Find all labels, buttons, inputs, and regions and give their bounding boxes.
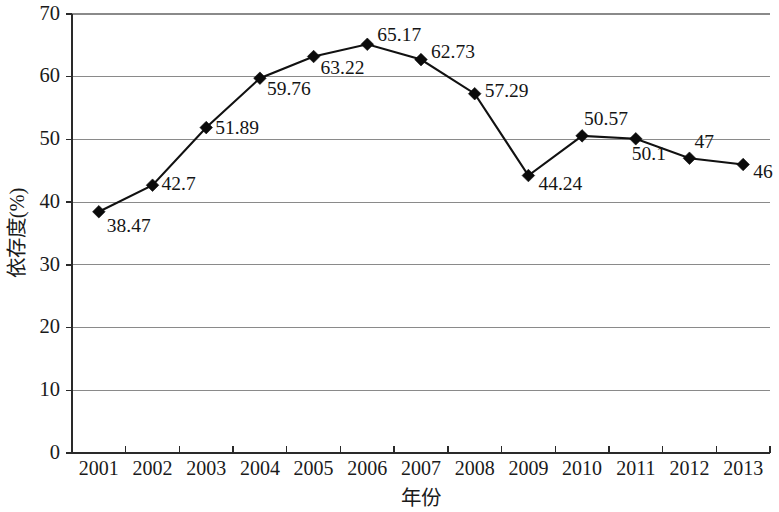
line-chart: 010203040506070 200120022003200420052006… — [0, 0, 779, 512]
data-point-label: 50.1 — [632, 143, 666, 164]
x-tick-label: 2001 — [79, 457, 119, 479]
data-point-label: 62.73 — [431, 41, 475, 62]
y-tick-label: 70 — [40, 2, 61, 24]
data-point-label: 51.89 — [215, 117, 259, 138]
x-tick-label: 2013 — [723, 457, 763, 479]
y-tick-label: 60 — [40, 64, 61, 86]
x-tick-label: 2004 — [240, 457, 280, 479]
data-point-label: 42.7 — [162, 173, 196, 194]
y-tick-label: 50 — [40, 127, 61, 149]
y-tick-label: 40 — [40, 190, 61, 212]
data-point-label: 38.47 — [107, 215, 151, 236]
y-tick-label: 10 — [40, 378, 61, 400]
data-point-label: 57.29 — [485, 80, 529, 101]
x-tick-label: 2012 — [669, 457, 709, 479]
y-tick-label: 0 — [50, 441, 60, 463]
data-point-label: 50.57 — [584, 108, 628, 129]
x-axis-title: 年份 — [401, 487, 441, 509]
chart-canvas: 010203040506070 200120022003200420052006… — [0, 0, 779, 512]
x-tick-label: 2008 — [455, 457, 495, 479]
x-tick-label: 2006 — [347, 457, 387, 479]
data-point-label: 59.76 — [267, 78, 311, 99]
x-tick-label: 2005 — [294, 457, 334, 479]
data-point-label: 46 — [753, 161, 773, 182]
x-tick-label: 2003 — [186, 457, 226, 479]
y-tick-label: 30 — [40, 253, 61, 275]
data-point-label: 47 — [694, 131, 714, 152]
y-axis-title: 依存度(%) — [6, 188, 29, 279]
data-point-label: 44.24 — [538, 173, 582, 194]
x-tick-label: 2010 — [562, 457, 602, 479]
x-tick-label: 2002 — [133, 457, 173, 479]
data-point-label: 65.17 — [377, 24, 421, 45]
data-point-label: 63.22 — [321, 57, 365, 78]
x-tick-label: 2009 — [508, 457, 548, 479]
x-tick-label: 2007 — [401, 457, 441, 479]
x-tick-label: 2011 — [616, 457, 655, 479]
y-tick-label: 20 — [40, 315, 61, 337]
